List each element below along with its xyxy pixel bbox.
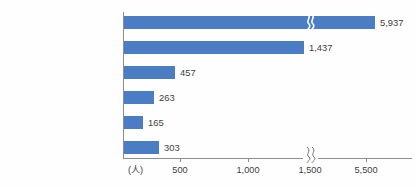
x-tick-label: 500 [172,164,187,176]
value-label: 303 [164,141,180,154]
x-tick [248,158,249,162]
x-axis-line [123,158,412,159]
x-tick-label: 1,000 [237,164,260,176]
bar-chart: 負傷に起因する疾病 5,937 物理的因子による疾病 1,437 作業態様に起因… [0,0,416,187]
value-label: 165 [148,116,164,129]
x-axis-unit-label: (人) [128,164,143,176]
y-axis-line [123,12,124,159]
value-label: 5,937 [380,16,403,29]
bar[interactable] [124,141,159,154]
bar[interactable] [124,16,375,29]
x-tick-label: 1,500 [299,164,322,176]
x-tick [310,158,311,162]
value-label: 1,437 [309,41,332,54]
bar[interactable] [124,91,154,104]
bar[interactable] [124,41,304,54]
value-label: 457 [180,66,196,79]
x-tick [366,158,367,162]
bar[interactable] [124,66,175,79]
x-tick [180,158,181,162]
value-label: 263 [159,91,175,104]
bar[interactable] [124,116,143,129]
x-tick-label: 5,500 [355,164,378,176]
